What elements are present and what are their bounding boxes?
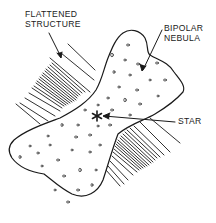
bipolar-nebula-diagram: FLATTENED STRUCTURE BIPOLAR NEBULA STAR xyxy=(0,0,216,223)
flattened-structure-label-line2: STRUCTURE xyxy=(25,20,81,30)
flattened-structure-label: FLATTENED STRUCTURE xyxy=(25,10,81,29)
star-label: STAR xyxy=(178,117,201,127)
flattened-structure-arrow xyxy=(49,33,62,58)
bipolar-nebula-label: BIPOLAR NEBULA xyxy=(164,24,203,43)
bipolar-nebula-label-line2: NEBULA xyxy=(164,34,203,44)
